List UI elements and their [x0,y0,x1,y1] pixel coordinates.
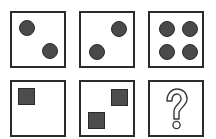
circle-shape [111,21,127,37]
cell-row1-col2 [79,11,135,68]
question-mark-icon [150,82,202,135]
circle-shape [159,44,175,60]
circle-shape [89,44,105,60]
cell-row2-col1 [10,80,66,137]
circle-shape [182,44,198,60]
cell-row1-col1 [10,11,66,68]
cell-row1-col3 [148,11,204,68]
square-shape [18,88,35,105]
circle-shape [42,43,58,59]
circle-shape [159,21,175,37]
cell-row2-col3-answer [148,80,204,137]
cell-row2-col2 [79,80,135,137]
circle-shape [182,21,198,37]
square-shape [111,89,128,106]
square-shape [88,112,105,129]
circle-shape [19,20,35,36]
